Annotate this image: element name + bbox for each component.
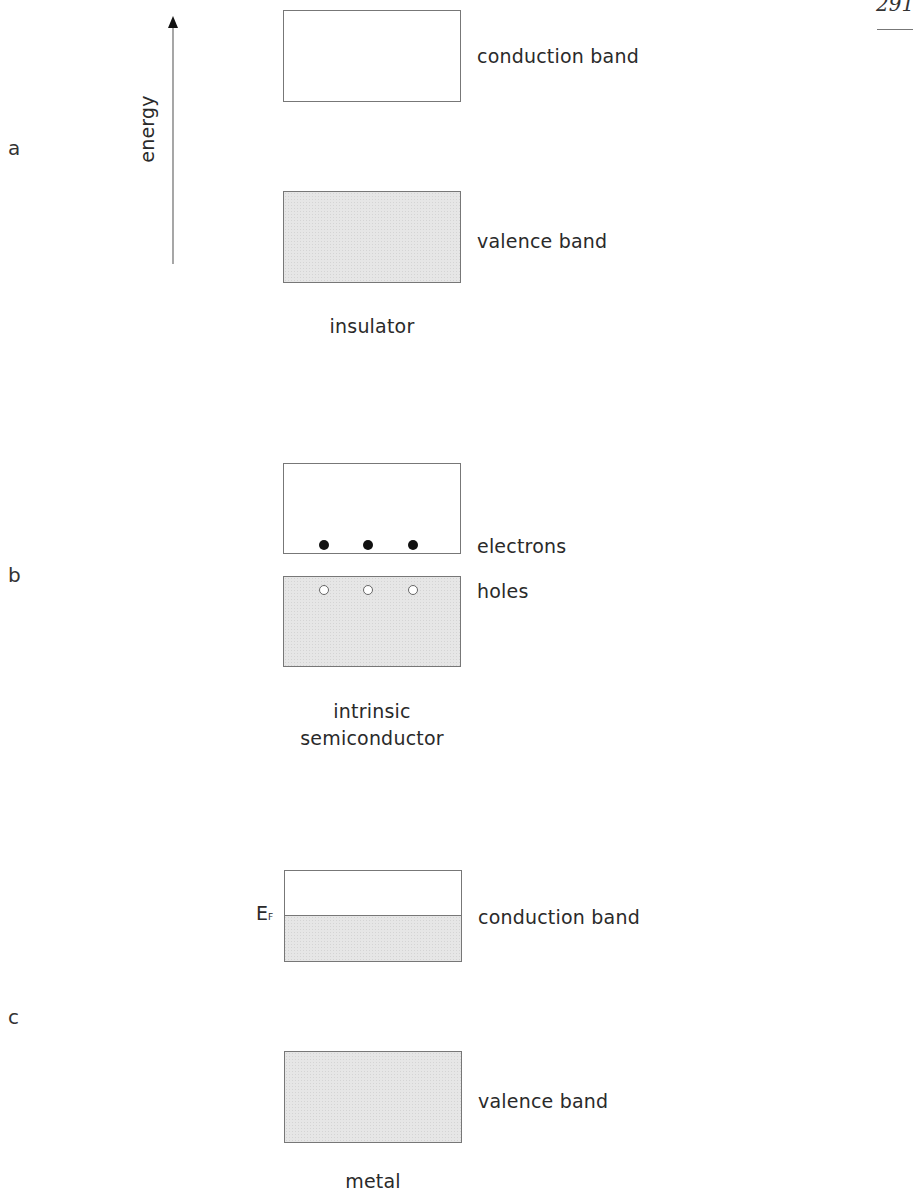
hole-circle [319,585,329,595]
electron-dot [319,540,329,550]
panel-letter-a: a [8,136,20,160]
panel-letter-c: c [8,1005,19,1029]
conduction-band-label-metal: conduction band [478,906,640,928]
valence-band-label-metal: valence band [478,1090,608,1112]
conduction-band-insulator [283,10,461,102]
panel-letter-b: b [8,563,21,587]
page-number: 291 [876,0,913,16]
caption-metal: metal [284,1170,462,1192]
fermi-level-label: EF [256,902,273,924]
electrons-label: electrons [477,535,566,557]
fermi-subscript: F [268,912,273,922]
valence-band-label: valence band [477,230,607,252]
energy-arrow-icon [160,14,184,266]
caption-semiconductor: semiconductor [263,727,481,749]
conduction-band-label: conduction band [477,45,639,67]
hole-circle [408,585,418,595]
holes-label: holes [477,580,529,602]
conduction-band-metal [284,870,462,962]
caption-insulator: insulator [283,315,461,337]
hole-circle [363,585,373,595]
valence-band-insulator [283,191,461,283]
electron-dot [408,540,418,550]
filled-states-below-fermi [284,915,462,962]
electron-dot [363,540,373,550]
conduction-band-semiconductor [283,463,461,554]
page-rule [877,29,913,30]
energy-axis-label: energy [136,94,158,164]
caption-intrinsic: intrinsic [263,700,481,722]
valence-band-metal [284,1051,462,1143]
